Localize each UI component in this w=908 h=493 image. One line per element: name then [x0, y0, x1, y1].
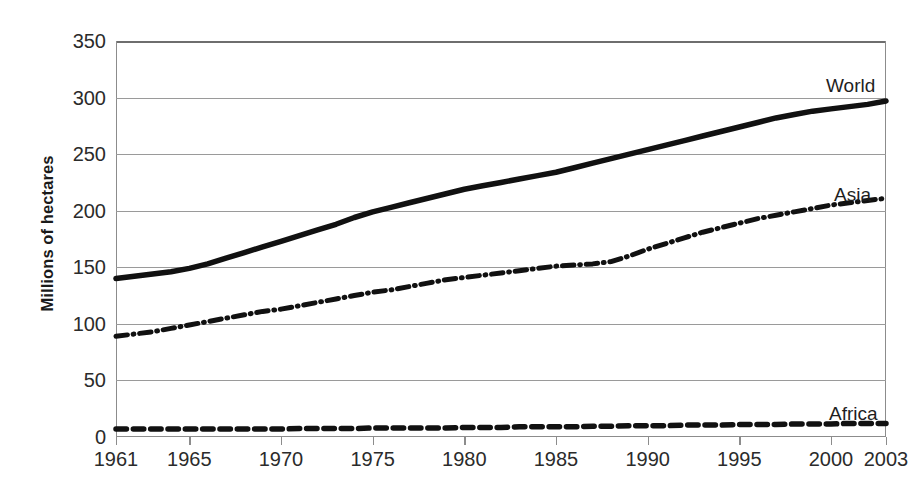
y-axis-tick-label: 300: [73, 88, 106, 108]
x-axis-tick-label: 1975: [350, 449, 395, 469]
series-lines: [116, 41, 886, 437]
series-label-world: World: [826, 76, 875, 95]
x-axis-tick-label: 1990: [625, 449, 670, 469]
series-label-africa: Africa: [829, 404, 878, 423]
y-axis-tick-label: 150: [73, 257, 106, 277]
y-axis-title-wrapper: Millions of hectares: [0, 0, 46, 493]
y-axis-tick-label: 250: [73, 144, 106, 164]
x-axis-tick-mark: [556, 437, 557, 445]
x-axis-tick-mark: [648, 437, 649, 445]
series-line-africa: [116, 423, 886, 429]
y-axis-tick-label: 0: [95, 427, 106, 447]
x-axis-tick-mark: [116, 437, 117, 445]
series-label-asia: Asia: [834, 185, 871, 204]
x-axis-tick-label: 1980: [442, 449, 487, 469]
x-axis-tick-mark: [464, 437, 465, 445]
x-axis-tick-label: 1961: [94, 449, 139, 469]
y-axis-tick-label: 200: [73, 201, 106, 221]
x-axis-tick-mark: [281, 437, 282, 445]
y-axis-tick-label: 100: [73, 314, 106, 334]
x-axis-tick-mark: [739, 437, 740, 445]
series-line-asia: [116, 198, 886, 336]
y-axis-tick-labels: 050100150200250300350: [46, 0, 110, 493]
x-axis-tick-label: 1995: [717, 449, 762, 469]
x-axis-tick-mark: [373, 437, 374, 445]
x-axis-tick-label: 1965: [167, 449, 212, 469]
y-axis-tick-label: 350: [73, 31, 106, 51]
x-axis-tick-label: 2000: [809, 449, 854, 469]
x-axis-tick-mark: [831, 437, 832, 445]
x-axis-tick-mark: [886, 437, 887, 445]
series-line-world: [116, 101, 886, 279]
x-axis-tick-mark: [189, 437, 190, 445]
y-axis-tick-label: 50: [84, 370, 106, 390]
x-axis-tick-label: 2003: [864, 449, 908, 469]
plot-area: [116, 41, 886, 437]
x-axis-tick-label: 1985: [534, 449, 579, 469]
x-axis-tick-label: 1970: [259, 449, 304, 469]
